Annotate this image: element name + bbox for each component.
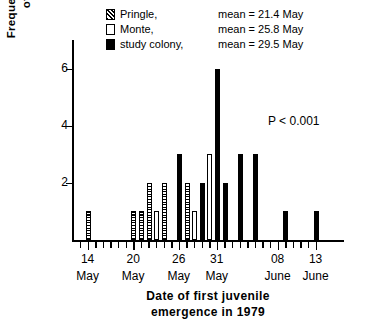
x-tick-mark xyxy=(156,242,157,248)
bar xyxy=(139,211,144,240)
bar xyxy=(162,183,167,240)
x-tick-mark xyxy=(118,242,119,248)
x-tick-mark xyxy=(217,242,218,250)
legend-mean-value: mean = 21.4 May xyxy=(218,8,303,20)
y-tick-label: 6 xyxy=(52,61,68,75)
plot-area: 246 14May20May26May31May08June13June xyxy=(72,40,344,242)
bar xyxy=(238,154,243,240)
x-tick-label-day: 20 xyxy=(113,252,153,266)
x-tick-mark xyxy=(148,242,149,248)
x-tick-mark xyxy=(308,242,309,248)
bar xyxy=(253,154,258,240)
bar xyxy=(177,154,182,240)
bar xyxy=(223,183,228,240)
x-tick-mark xyxy=(171,242,172,248)
x-tick-label: 20May xyxy=(113,252,153,283)
x-tick-label-day: 13 xyxy=(296,252,336,266)
x-tick-mark xyxy=(179,242,180,250)
x-tick-mark xyxy=(270,242,271,248)
legend-mean-value: mean = 25.8 May xyxy=(218,23,303,35)
bar xyxy=(314,211,319,240)
x-tick-mark xyxy=(240,242,241,248)
x-tick-mark xyxy=(103,242,104,248)
x-tick-mark xyxy=(141,242,142,248)
legend-label: Monte, xyxy=(120,23,218,35)
bar xyxy=(215,69,220,240)
x-axis-title: Date of first juvenile emergence in 1979 xyxy=(72,288,344,320)
x-tick-mark xyxy=(300,242,301,248)
legend-label: Pringle, xyxy=(120,8,218,20)
x-tick-mark xyxy=(278,242,279,250)
x-tick-label: 13June xyxy=(296,252,336,283)
x-tick-mark xyxy=(186,242,187,248)
x-tick-label: 26May xyxy=(159,252,199,283)
bar xyxy=(86,211,91,240)
x-tick-mark xyxy=(209,242,210,248)
bar xyxy=(283,211,288,240)
hatched-swatch-icon xyxy=(106,9,115,20)
x-tick-mark xyxy=(126,242,127,248)
white-swatch-icon xyxy=(106,24,115,35)
x-tick-mark xyxy=(255,242,256,248)
bar xyxy=(147,183,152,240)
bar xyxy=(131,211,136,240)
x-tick-label-day: 26 xyxy=(159,252,199,266)
bar xyxy=(200,183,205,240)
x-tick-mark xyxy=(80,242,81,248)
bar-series-group xyxy=(72,40,344,240)
x-tick-label-month: May xyxy=(113,269,153,283)
x-tick-mark xyxy=(232,242,233,248)
legend-row: Pringle,mean = 21.4 May xyxy=(106,7,356,21)
x-axis-line xyxy=(72,240,344,242)
y-axis-title-line1: Frequency (number xyxy=(4,0,19,62)
x-tick-mark xyxy=(133,242,134,250)
x-tick-label-day: 31 xyxy=(197,252,237,266)
legend-row: Monte,mean = 25.8 May xyxy=(106,22,356,36)
x-tick-mark xyxy=(224,242,225,248)
x-tick-label-day: 14 xyxy=(68,252,108,266)
y-tick-label: 2 xyxy=(52,175,68,189)
x-tick-mark xyxy=(316,242,317,250)
y-tick-label: 4 xyxy=(52,118,68,132)
x-tick-mark xyxy=(285,242,286,248)
x-tick-mark xyxy=(247,242,248,248)
x-tick-mark xyxy=(88,242,89,250)
x-axis-title-line2: emergence in 1979 xyxy=(72,304,344,320)
x-tick-label-month: May xyxy=(159,269,199,283)
bar xyxy=(154,211,159,240)
x-tick-mark xyxy=(95,242,96,248)
x-tick-label: 08June xyxy=(258,252,298,283)
bar xyxy=(185,183,190,240)
y-axis-title: Frequency (number of litters) xyxy=(4,0,34,62)
x-tick-label-month: June xyxy=(296,269,336,283)
x-tick-label-month: May xyxy=(197,269,237,283)
chart-figure: Pringle,mean = 21.4 MayMonte,mean = 25.8… xyxy=(0,0,366,336)
x-tick-mark xyxy=(164,242,165,248)
x-tick-label: 14May xyxy=(68,252,108,283)
x-tick-label: 31May xyxy=(197,252,237,283)
x-tick-label-day: 08 xyxy=(258,252,298,266)
x-tick-mark xyxy=(262,242,263,248)
x-tick-mark xyxy=(110,242,111,248)
x-tick-label-month: June xyxy=(258,269,298,283)
bar xyxy=(207,154,212,240)
pvalue-annotation: P < 0.001 xyxy=(268,114,320,128)
x-axis-title-line1: Date of first juvenile xyxy=(72,288,344,304)
x-tick-mark xyxy=(194,242,195,248)
x-tick-mark xyxy=(293,242,294,248)
x-tick-mark xyxy=(202,242,203,248)
x-tick-label-month: May xyxy=(68,269,108,283)
bar xyxy=(192,211,197,240)
y-axis-title-line2: of litters) xyxy=(19,0,34,62)
